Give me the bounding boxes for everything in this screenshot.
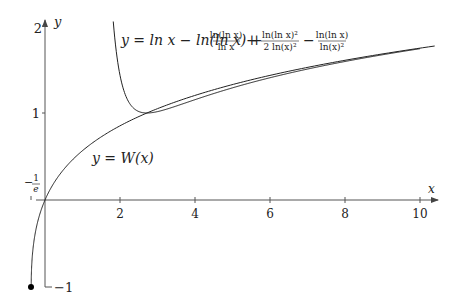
x-axis-label: x — [428, 182, 435, 196]
y-tick-minus1: −1 — [54, 280, 73, 295]
svg-text:ln(ln x)²: ln(ln x)² — [262, 30, 298, 40]
lambert-w-curve — [31, 46, 434, 287]
y-tick-1: 1 — [32, 106, 40, 121]
neg-inv-e-den: e — [33, 184, 38, 194]
w-curve-label: y = W(x) — [91, 150, 154, 166]
x-tick-8: 8 — [341, 207, 349, 221]
neg-inv-e-num: 1 — [33, 173, 39, 183]
svg-text:−: − — [303, 32, 315, 48]
endpoint-dot — [28, 284, 34, 290]
formula-label: y = ln x − ln(ln x) + ln(ln x) ln x + ln… — [120, 30, 348, 52]
svg-text:ln x: ln x — [218, 42, 235, 52]
svg-text:2 ln(x)²: 2 ln(x)² — [264, 42, 297, 52]
y-tick-2: 2 — [34, 21, 42, 36]
svg-text:+: + — [246, 32, 258, 48]
y-axis-label: y — [53, 14, 62, 29]
svg-text:ln(ln x): ln(ln x) — [210, 30, 242, 40]
x-tick-6: 6 — [266, 207, 274, 221]
svg-text:−: − — [24, 176, 33, 189]
svg-text:ln(ln x): ln(ln x) — [316, 30, 348, 40]
x-tick-2: 2 — [116, 207, 124, 221]
x-tick-4: 4 — [191, 207, 199, 221]
x-tick-10: 10 — [412, 207, 427, 221]
svg-text:ln(x)²: ln(x)² — [320, 42, 345, 52]
lambert-w-chart: 2 4 6 8 10 x 1 2 −1 y − 1 e y = W(x) y =… — [0, 0, 457, 305]
